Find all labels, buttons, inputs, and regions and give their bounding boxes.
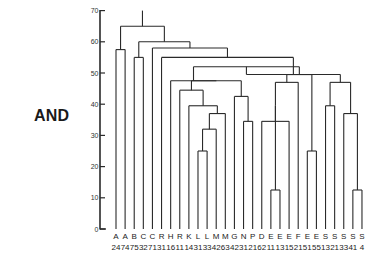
leaf-letter: L (196, 232, 201, 241)
y-tick-label: 0 (95, 226, 99, 233)
leaf-number: 42 (212, 243, 221, 252)
leaf-number: 32 (139, 243, 148, 252)
leaf-number: 16 (166, 243, 175, 252)
leaf-number: 33 (339, 243, 348, 252)
dendrogram-branches (116, 11, 362, 229)
leaf-letter: D (259, 232, 265, 241)
leaf-letter: E (314, 232, 319, 241)
leaf-number: 24 (112, 243, 121, 252)
leaf-letter: L (205, 232, 210, 241)
leaf-number: 42 (230, 243, 239, 252)
leaf-letter: M (222, 232, 229, 241)
y-tick-label: 40 (91, 101, 99, 108)
leaf-letter: N (241, 232, 247, 241)
leaf-letter: C (150, 232, 156, 241)
y-tick-label: 60 (91, 38, 99, 45)
dendrogram-chart: 010203040506070 A24A74B75C32C71R31H16R11… (0, 0, 389, 256)
leaf-number: 62 (257, 243, 266, 252)
leaf-number: 31 (194, 243, 203, 252)
leaf-letter: R (177, 232, 183, 241)
leaf-letter: M (213, 232, 220, 241)
y-tick-label: 50 (91, 70, 99, 77)
leaf-letter: S (350, 232, 355, 241)
leaf-number: 13 (321, 243, 330, 252)
leaf-letter: S (359, 232, 364, 241)
leaf-letter: G (231, 232, 237, 241)
leaf-number: 11 (176, 243, 185, 252)
y-axis: 010203040506070 (91, 7, 106, 232)
leaf-letter: K (186, 232, 192, 241)
y-tick-label: 30 (91, 132, 99, 139)
leaf-labels: A24A74B75C32C71R31H16R11K14L31L33M42M63G… (112, 232, 365, 252)
leaf-letter: C (140, 232, 146, 241)
leaf-number: 55 (312, 243, 321, 252)
leaf-number: 21 (294, 243, 303, 252)
leaf-number: 71 (148, 243, 157, 252)
leaf-number: 31 (157, 243, 166, 252)
leaf-letter: R (159, 232, 165, 241)
leaf-number: 15 (285, 243, 294, 252)
leaf-letter: E (268, 232, 273, 241)
leaf-number: 13 (276, 243, 285, 252)
leaf-letter: E (277, 232, 282, 241)
leaf-number: 21 (248, 243, 257, 252)
leaf-number: 74 (121, 243, 130, 252)
leaf-letter: F (296, 232, 301, 241)
leaf-number: 14 (184, 243, 193, 252)
leaf-letter: B (132, 232, 137, 241)
leaf-letter: A (122, 232, 128, 241)
leaf-letter: S (341, 232, 346, 241)
leaf-number: 63 (221, 243, 230, 252)
leaf-number: 33 (203, 243, 212, 252)
leaf-number: 21 (330, 243, 339, 252)
y-tick-label: 10 (91, 194, 99, 201)
leaf-number: 75 (130, 243, 139, 252)
leaf-number: 31 (239, 243, 248, 252)
leaf-letter: E (305, 232, 310, 241)
leaf-number: 4 (360, 243, 365, 252)
leaf-letter: S (323, 232, 328, 241)
leaf-number: 51 (303, 243, 312, 252)
leaf-number: 41 (348, 243, 357, 252)
leaf-letter: A (113, 232, 119, 241)
leaf-letter: P (250, 232, 255, 241)
leaf-letter: S (332, 232, 337, 241)
leaf-number: 11 (267, 243, 276, 252)
y-tick-label: 20 (91, 163, 99, 170)
leaf-letter: H (168, 232, 174, 241)
y-tick-label: 70 (91, 7, 99, 14)
leaf-letter: E (286, 232, 291, 241)
